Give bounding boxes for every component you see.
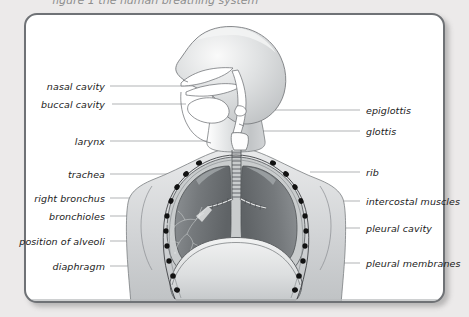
label-intercostal-muscles: intercostal muscles — [366, 196, 460, 207]
label-position-of-alveoli: position of alveoli — [0, 236, 105, 247]
diagram-stage: figure 1 the human breathing system — [0, 0, 469, 317]
label-rib: rib — [366, 167, 379, 178]
label-pleural-cavity: pleural cavity — [366, 223, 432, 234]
label-bronchioles: bronchioles — [0, 211, 105, 222]
larynx-shape — [231, 133, 248, 150]
label-trachea: trachea — [0, 169, 105, 180]
label-larynx: larynx — [0, 136, 105, 147]
label-buccal-cavity: buccal cavity — [0, 99, 105, 110]
label-diaphragm: diaphragm — [0, 261, 105, 272]
label-nasal-cavity: nasal cavity — [0, 81, 105, 92]
baseline-shadow — [26, 299, 443, 302]
label-epiglottis: epiglottis — [366, 105, 411, 116]
label-right-bronchus: right bronchus — [0, 193, 105, 204]
label-glottis: glottis — [366, 126, 396, 137]
label-pleural-membranes: pleural membranes — [366, 258, 461, 269]
